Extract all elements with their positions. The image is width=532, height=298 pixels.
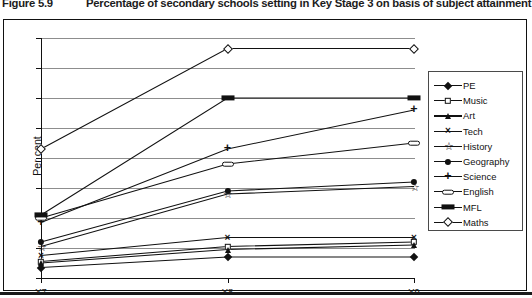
circle-marker-icon <box>445 158 451 164</box>
bar-marker-icon <box>35 212 48 217</box>
legend-key <box>433 94 463 107</box>
legend-item-geography[interactable]: Geography <box>433 154 522 169</box>
plot-area: Per cent 01020304050607080 Y7Y8Y9 ×××☆☆☆… <box>41 38 415 278</box>
legend-key: × <box>433 125 463 138</box>
plus-marker-icon: + <box>443 172 453 182</box>
legend-item-history[interactable]: ☆History <box>433 139 522 154</box>
legend-key <box>433 185 463 198</box>
legend-label: Geography <box>463 156 509 167</box>
legend-label: MFL <box>463 202 482 213</box>
figure-number: Figure 5.9 <box>2 0 53 9</box>
figure-container: Figure 5.9 Percentage of secondary schoo… <box>0 0 532 298</box>
legend-item-maths[interactable]: Maths <box>433 215 522 230</box>
pill-marker-icon <box>442 190 454 195</box>
legend-item-pe[interactable]: PE <box>433 78 522 93</box>
legend-key <box>433 155 463 168</box>
x-axis-tick <box>41 278 42 283</box>
triangle-marker-icon <box>411 242 417 248</box>
pill-marker-icon <box>222 162 234 167</box>
cross-marker-icon: × <box>37 251 46 260</box>
bar-marker-icon <box>221 95 234 100</box>
legend-label: Science <box>463 171 496 182</box>
diamond-marker-icon <box>444 81 452 89</box>
x-axis-tick <box>414 278 415 283</box>
bar-marker-icon <box>442 205 455 210</box>
legend-label: Music <box>463 95 487 106</box>
legend-item-music[interactable]: Music <box>433 93 522 108</box>
bar-marker-icon <box>408 95 421 100</box>
legend-key <box>433 79 463 92</box>
legend-item-science[interactable]: +Science <box>433 169 522 184</box>
legend-label: Art <box>463 110 475 121</box>
square-marker-icon <box>445 98 451 104</box>
plus-marker-icon: + <box>223 144 233 154</box>
triangle-marker-icon <box>38 260 44 266</box>
chart-legend: PEMusicArt×Tech☆HistoryGeography+Science… <box>428 71 523 231</box>
figure-title-text: Percentage of secondary schools setting … <box>86 0 531 9</box>
star-marker-icon: ☆ <box>444 142 453 151</box>
triangle-marker-icon <box>225 247 231 253</box>
legend-label: History <box>463 141 492 152</box>
triangle-marker-icon <box>445 113 451 119</box>
cross-marker-icon: × <box>223 233 232 242</box>
legend-item-english[interactable]: English <box>433 184 522 199</box>
legend-key <box>433 201 463 214</box>
legend-label: English <box>463 186 494 197</box>
cross-marker-icon: × <box>444 127 453 136</box>
pill-marker-icon <box>408 141 420 146</box>
legend-key: ☆ <box>433 140 463 153</box>
legend-item-mfl[interactable]: MFL <box>433 200 522 215</box>
legend-label: Maths <box>463 217 489 228</box>
bottom-rule <box>0 292 532 295</box>
legend-key <box>433 109 463 122</box>
legend-item-art[interactable]: Art <box>433 108 522 123</box>
legend-label: PE <box>463 80 476 91</box>
x-axis-tick <box>228 278 229 283</box>
series-lines <box>41 38 415 278</box>
legend-item-tech[interactable]: ×Tech <box>433 124 522 139</box>
legend-key: + <box>433 170 463 183</box>
legend-key <box>433 216 463 229</box>
legend-label: Tech <box>463 126 483 137</box>
cross-marker-icon: × <box>410 233 419 242</box>
plus-marker-icon: + <box>409 105 419 115</box>
figure-title: Figure 5.9 Percentage of secondary schoo… <box>0 0 532 14</box>
odiamond-marker-icon <box>443 217 453 227</box>
